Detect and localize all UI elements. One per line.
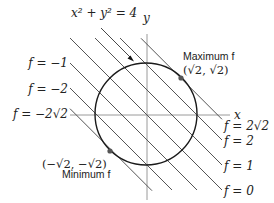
minimum-point [107,148,112,153]
maximum-title: Maximum f [183,50,234,62]
y-axis-label: y [142,11,150,25]
label-f-0: f = 0 [223,184,254,198]
label-f-neg-2sqrt2: f = −2√2 [12,107,68,121]
minimum-title: Minimum f [62,168,111,180]
label-f-2: f = 2 [223,134,254,148]
arrowhead-icon [128,56,135,62]
label-f-1: f = 1 [223,159,254,173]
label-f-neg-1: f = −1 [27,56,68,70]
label-f-neg-2: f = −2 [27,82,68,96]
circle-equation-label: x² + y² = 4 [71,6,137,20]
equation-pointer-arrow [101,28,132,59]
label-f-2sqrt2: f = 2√2 [223,119,269,133]
maximum-coordinates: (√2, √2) [183,63,229,77]
lagrange-level-curves-diagram: x² + y² = 4 y x f = −1 f = −2 f = −2√2 f… [0,0,274,203]
